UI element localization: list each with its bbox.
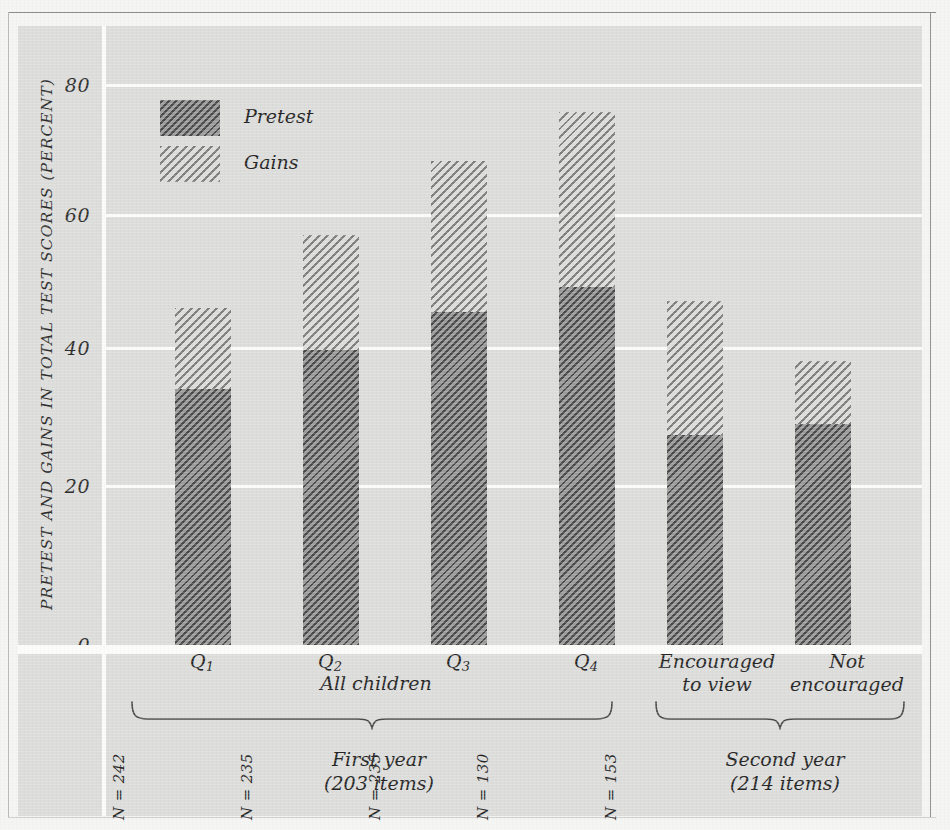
bar-q2 [303,235,359,645]
y-tick-80: 80 [30,74,90,96]
category-q3-text: Q [446,650,462,672]
bar-notenc [795,361,851,645]
category-label-not-encouraged: Not encouraged [782,650,912,696]
page-right-rule [930,12,931,818]
legend-label-pretest: Pretest [244,105,313,127]
bar-segment-pretest-q3 [431,312,487,645]
chart-page: PRETEST AND GAINS IN TOTAL TEST SCORES (… [0,0,950,830]
y-tick-60: 60 [30,204,90,226]
brace-second-year-top [650,700,910,730]
page-left-rule [8,12,9,818]
gridline-80 [106,84,922,87]
category-q4-subscript: 4 [590,659,598,674]
axis-label-panel [18,26,102,816]
y-axis-spine [102,26,106,816]
y-tick-40: 40 [30,337,90,359]
group-label-second-year: Second year (214 items) [690,748,880,796]
legend-label-gains: Gains [244,151,299,173]
bar-segment-pretest-enc [667,435,723,645]
y-tick-20: 20 [30,475,90,497]
group-second-year-line2: (214 items) [690,772,880,796]
bar-segment-gains-q4 [559,112,615,287]
group-first-year-line1: First year [284,748,474,772]
category-not-encouraged-line1: Not [782,650,912,673]
category-encouraged-line1: Encouraged [654,650,780,673]
category-label-q4: Q4 [546,650,626,674]
bar-q4 [559,112,615,645]
category-q1-text: Q [190,650,206,672]
bar-segment-pretest-q4 [559,287,615,645]
gridline-60 [106,214,922,217]
group-second-year-line1: Second year [690,748,880,772]
bar-segment-pretest-notenc [795,424,851,645]
bar-segment-pretest-q2 [303,350,359,645]
category-q2-text: Q [318,650,334,672]
bar-q3 [431,161,487,645]
category-label-q1: Q1 [162,650,242,674]
page-top-rule [8,12,936,13]
category-label-encouraged: Encouraged to view [654,650,780,696]
bar-segment-gains-q2 [303,235,359,351]
bar-enc [667,301,723,645]
group-label-all-children: All children [286,672,466,694]
bar-segment-pretest-q1 [175,389,231,645]
group-label-first-year: First year (203 items) [284,748,474,796]
group-first-year-line2: (203 items) [284,772,474,796]
category-q4-text: Q [574,650,590,672]
category-label-q2: Q2 [290,650,370,674]
brace-all-children [126,700,618,730]
legend-swatch-pretest [160,100,220,136]
legend-swatch-gains [160,146,220,182]
bar-segment-gains-notenc [795,361,851,424]
bar-segment-gains-enc [667,301,723,434]
bar-q1 [175,308,231,645]
category-label-q3: Q3 [418,650,498,674]
bar-segment-gains-q1 [175,308,231,389]
bar-segment-gains-q3 [431,161,487,312]
category-not-encouraged-line2: encouraged [782,673,912,696]
category-encouraged-line2: to view [654,673,780,696]
category-q1-subscript: 1 [206,659,214,674]
